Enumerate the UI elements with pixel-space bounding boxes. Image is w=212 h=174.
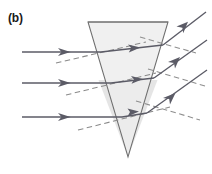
prism-group	[88, 22, 168, 157]
figure-panel-b: (b)	[0, 0, 212, 174]
prism-refraction-diagram	[0, 0, 212, 174]
prism-shape	[88, 22, 168, 157]
panel-label: (b)	[8, 12, 23, 24]
ray-3-emergent-arrowhead	[163, 93, 176, 105]
